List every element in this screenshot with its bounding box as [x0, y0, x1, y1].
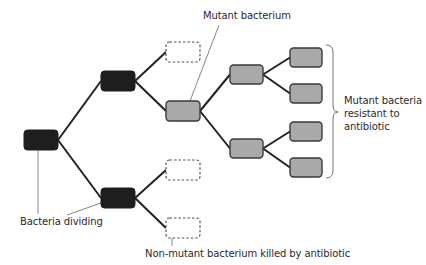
- branch-mutant-b-leaf-3: [263, 132, 290, 149]
- bacterium-mutant-leaf-3: [290, 122, 322, 141]
- branch-root-div-bottom: [58, 140, 101, 198]
- bacterium-dividing-div-top: [101, 71, 135, 91]
- label-non-mutant-killed: Non-mutant bacterium killed by antibioti…: [145, 247, 350, 260]
- branch-mutant-mutant-a: [200, 75, 230, 112]
- branch-div-top-mutant: [135, 81, 166, 111]
- curly-brace: [326, 45, 338, 178]
- bacterium-killed-killed-3: [166, 218, 200, 238]
- diagram-canvas: Mutant bacterium Bacteria dividing Non-m…: [0, 0, 426, 265]
- label-bacteria-dividing: Bacteria dividing: [20, 215, 103, 228]
- leader-bacteria-dividing-bottom: [67, 203, 101, 215]
- branch-mutant-a-leaf-2: [263, 75, 290, 94]
- bacterium-mutant-leaf-2: [290, 84, 322, 103]
- bacterium-killed-killed-2: [166, 160, 200, 180]
- bacterium-dividing-div-bottom: [101, 188, 135, 208]
- bacterium-dividing-root: [24, 130, 58, 150]
- label-resistant-line1: Mutant bacteria: [344, 94, 422, 107]
- bacterium-mutant-mutant: [166, 101, 200, 121]
- bacterium-mutant-mutant-a: [230, 65, 263, 84]
- branch-div-top-killed-1: [135, 52, 166, 81]
- branch-mutant-b-leaf-4: [263, 149, 290, 168]
- label-resistant-line2: resistant to: [344, 107, 400, 120]
- leader-mutant-bacterium: [190, 25, 219, 101]
- bacterium-killed-killed-1: [166, 42, 200, 62]
- bacterium-mutant-leaf-1: [290, 48, 322, 67]
- branch-root-div-top: [58, 81, 101, 140]
- label-resistant-line3: antibiotic: [344, 120, 390, 133]
- bacterium-mutant-mutant-b: [230, 139, 263, 158]
- branch-mutant-mutant-b: [200, 111, 230, 149]
- label-mutant-bacterium: Mutant bacterium: [203, 9, 291, 22]
- bacterium-mutant-leaf-4: [290, 158, 322, 177]
- branch-mutant-a-leaf-1: [263, 58, 290, 75]
- branch-div-bottom-killed-3: [135, 198, 166, 228]
- branch-div-bottom-killed-2: [135, 170, 166, 198]
